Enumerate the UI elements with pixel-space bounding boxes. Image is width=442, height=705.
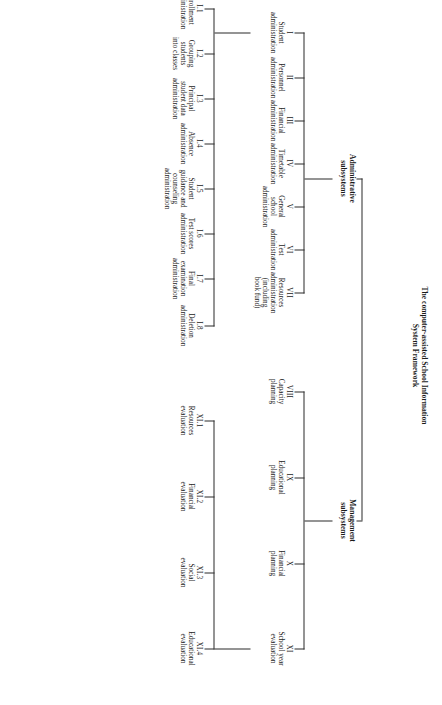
- root-stem-management: [356, 520, 362, 521]
- group-administrative-line2: subsystems: [338, 160, 347, 196]
- node-XI-line1: School year: [276, 618, 284, 678]
- diagram-title: The computer-assisted School Information…: [410, 255, 428, 455]
- node-I-4-code: I.4: [194, 117, 202, 169]
- student-sub-tick-2: [204, 53, 214, 54]
- node-VII-line4: book fund): [252, 262, 260, 322]
- evaluation-sub-tick-4: [204, 648, 214, 649]
- node-VIII-code: VIII: [284, 361, 292, 421]
- node-XI-2: XI.2 Financial evaluation: [178, 468, 202, 524]
- evaluation-subtree-bus: [213, 420, 214, 649]
- node-VII-line3: (including: [260, 262, 268, 322]
- student-sub-tick-1: [204, 8, 214, 9]
- group-management-line1: Management: [347, 499, 356, 542]
- root-stem-administrative: [356, 178, 362, 179]
- node-XI-1: XI.1 Resources evaluation: [178, 392, 202, 448]
- node-I-5: I.5 Student guidance and counseling admi…: [162, 162, 202, 214]
- evaluation-sub-tick-1: [204, 420, 214, 421]
- node-I-6: I.6 Test scores administration: [178, 207, 202, 259]
- node-XI-3-line1: Social: [186, 544, 194, 600]
- evaluation-sub-tick-3: [204, 572, 214, 573]
- management-tick-3: [294, 563, 304, 564]
- node-VIII: VIII Capacity planning: [268, 361, 292, 421]
- node-I-2-code: I.2: [194, 27, 202, 79]
- node-I-6-line1: Test scores: [186, 207, 194, 259]
- node-I-8-line2: administration: [178, 299, 186, 351]
- node-I-5-code: I.5: [194, 162, 202, 214]
- administrative-tick-5: [294, 206, 304, 207]
- node-I-6-code: I.6: [194, 207, 202, 259]
- node-X-code: X: [284, 533, 292, 593]
- node-I-2: I.2 Grouping students into classes: [170, 27, 202, 79]
- node-XI-4-code: XI.4: [194, 620, 202, 676]
- student-sub-tick-8: [204, 325, 214, 326]
- node-I-5-line4: administration: [162, 162, 170, 214]
- node-VII-line1: Resources: [276, 262, 284, 322]
- node-XI-2-line2: evaluation: [178, 468, 186, 524]
- node-XI-code: XI: [284, 618, 292, 678]
- node-VIII-line1: Capacity: [276, 361, 284, 421]
- node-I-5-line1: Student: [186, 162, 194, 214]
- administrative-tick-2: [294, 77, 304, 78]
- node-XI-4-line1: Educational: [186, 620, 194, 676]
- group-label-management: Management subsystems: [338, 470, 356, 570]
- node-I-3: I.3 Principal student data administratio…: [170, 72, 202, 124]
- node-I-7: I.7 Final examination administration: [170, 252, 202, 304]
- group-administrative-line1: Administrative: [347, 154, 356, 203]
- management-drop-line: [304, 520, 332, 521]
- diagram-canvas: The computer-assisted School Information…: [0, 0, 442, 705]
- diagram-title-line2: System Framework: [410, 323, 419, 386]
- student-sub-tick-6: [204, 233, 214, 234]
- management-tick-4: [294, 648, 304, 649]
- administrative-tick-1: [294, 32, 304, 33]
- management-tick-2: [294, 477, 304, 478]
- node-XI-1-line2: evaluation: [178, 392, 186, 448]
- node-XI-2-code: XI.2: [194, 468, 202, 524]
- node-XI-2-line1: Financial: [186, 468, 194, 524]
- node-V-line3: administration: [260, 176, 268, 236]
- node-X-line1: Financial: [276, 533, 284, 593]
- node-XI-3: XI.3 Social evaluation: [178, 544, 202, 600]
- node-I-7-line3: administration: [170, 252, 178, 304]
- node-I-3-line3: administration: [170, 72, 178, 124]
- node-VII-code: VII: [284, 262, 292, 322]
- evaluation-subtree-drop-line: [214, 648, 250, 649]
- student-subtree-drop-line: [214, 32, 250, 33]
- administrative-drop-line: [304, 178, 332, 179]
- node-I-2-line3: into classes: [170, 27, 178, 79]
- node-XI: XI School year evaluation: [268, 618, 292, 678]
- student-sub-tick-5: [204, 188, 214, 189]
- administrative-tick-7: [294, 292, 304, 293]
- diagram-title-line1: The computer-assisted School Information: [419, 286, 428, 424]
- node-I-6-line2: administration: [178, 207, 186, 259]
- node-IX-code: IX: [284, 447, 292, 507]
- node-I-7-code: I.7: [194, 252, 202, 304]
- node-X: X Financial planning: [268, 533, 292, 593]
- node-XI-1-line1: Resources: [186, 392, 194, 448]
- node-I-3-line2: student data: [178, 72, 186, 124]
- management-tick-1: [294, 391, 304, 392]
- administrative-bus: [303, 32, 304, 293]
- node-XI-4: XI.4 Educational evaluation: [178, 620, 202, 676]
- node-XI-3-code: XI.3: [194, 544, 202, 600]
- group-label-administrative: Administrative subsystems: [338, 128, 356, 228]
- node-IX-line2: planning: [268, 447, 276, 507]
- node-I-8: I.8 Deletion administration: [178, 299, 202, 351]
- node-X-line2: planning: [268, 533, 276, 593]
- group-management-line2: subsystems: [338, 502, 347, 538]
- node-XI-3-line2: evaluation: [178, 544, 186, 600]
- student-sub-tick-3: [204, 98, 214, 99]
- node-IX-line1: Educational: [276, 447, 284, 507]
- node-I-3-code: I.3: [194, 72, 202, 124]
- administrative-tick-3: [294, 120, 304, 121]
- node-I-4: I.4 Absence administration: [178, 117, 202, 169]
- node-XI-line2: evaluation: [268, 618, 276, 678]
- node-IX: IX Educational planning: [268, 447, 292, 507]
- node-I-4-line2: administration: [178, 117, 186, 169]
- student-sub-tick-4: [204, 143, 214, 144]
- node-VII: VII Resources administration (including …: [252, 262, 292, 322]
- node-I-7-line2: examination: [178, 252, 186, 304]
- node-I-5-line3: counseling: [170, 162, 178, 214]
- node-I-8-line1: Deletion: [186, 299, 194, 351]
- administrative-tick-6: [294, 249, 304, 250]
- node-I-4-line1: Absence: [186, 117, 194, 169]
